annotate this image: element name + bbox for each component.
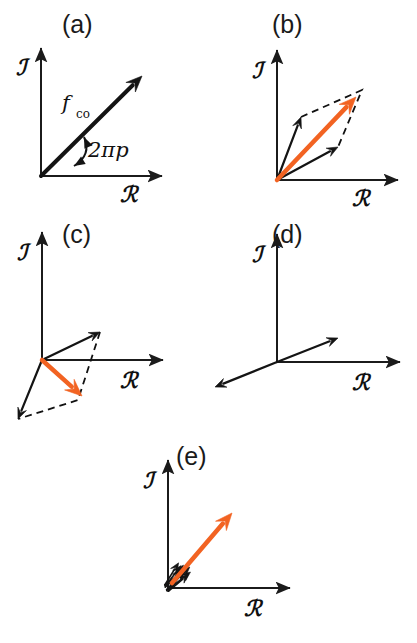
phase-angle-label: 2πp — [87, 138, 129, 162]
real-axis-label: ℛ — [120, 367, 140, 393]
real-axis-label: ℛ — [120, 181, 140, 207]
real-axis-label: ℛ — [352, 185, 372, 211]
f-co-subscript: co — [76, 107, 90, 121]
real-axis-label: ℛ — [352, 369, 372, 395]
figure-root: (a)ℛℐfco2πp(b)ℛℐ(c)ℛℐ(d)ℛℐ(e)ℛℐ — [0, 0, 417, 643]
panel-label-a: (a) — [62, 10, 93, 38]
panel-label-e: (e) — [176, 442, 207, 470]
panel-label-b: (b) — [272, 10, 303, 38]
panel-label-c: (c) — [62, 220, 91, 248]
phasor-diagram-svg: (a)ℛℐfco2πp(b)ℛℐ(c)ℛℐ(d)ℛℐ(e)ℛℐ — [0, 0, 417, 643]
real-axis-label: ℛ — [244, 595, 264, 621]
